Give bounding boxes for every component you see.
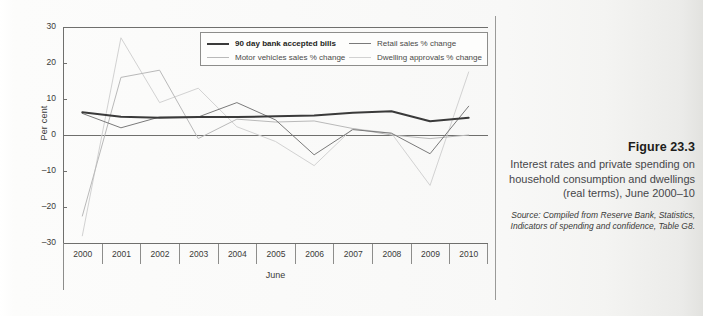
x-axis-cell-2002: 2002 <box>140 244 179 264</box>
x-axis-cell-2001: 2001 <box>102 244 141 264</box>
legend-label: Dwelling approvals % change <box>377 53 482 62</box>
x-axis-title: June <box>63 270 488 280</box>
legend-label: Retail sales % change <box>377 39 456 48</box>
legend-item: Motor vehicles sales % change <box>207 51 345 64</box>
y-tick-label: –20 <box>26 201 56 211</box>
series-line-retail-sales-change <box>82 103 468 155</box>
legend-item: Dwelling approvals % change <box>349 51 482 64</box>
figure-caption: Figure 23.3 Interest rates and private s… <box>505 140 695 232</box>
x-axis-cell-2005: 2005 <box>256 244 295 264</box>
figure-page: Per cent 3020100–10–20–30 20002001200220… <box>0 0 703 316</box>
y-tick-label: 10 <box>26 93 56 103</box>
x-axis-cell-2007: 2007 <box>333 244 372 264</box>
x-axis-cell-2004: 2004 <box>218 244 257 264</box>
y-tick-label: 0 <box>26 129 56 139</box>
x-axis-cell-2010: 2010 <box>449 244 488 264</box>
legend-item: Retail sales % change <box>349 37 456 50</box>
x-axis-cell-2009: 2009 <box>411 244 450 264</box>
legend-swatch-icon <box>207 57 229 58</box>
legend-item: 90 day bank accepted bills <box>207 37 336 50</box>
legend-swatch-icon <box>349 57 371 58</box>
figure-title: Interest rates and private spending on h… <box>505 157 695 201</box>
figure-number: Figure 23.3 <box>505 140 695 154</box>
x-axis-cell-2008: 2008 <box>372 244 411 264</box>
legend-swatch-icon <box>349 43 371 44</box>
legend-swatch-icon <box>207 43 229 45</box>
x-axis-cell-2003: 2003 <box>179 244 218 264</box>
chart-region: Per cent 3020100–10–20–30 20002001200220… <box>0 0 500 316</box>
x-axis-cell-2000: 2000 <box>63 244 102 264</box>
y-tick-label: –30 <box>26 237 56 247</box>
y-tick-label: –10 <box>26 165 56 175</box>
y-axis-title: Per cent <box>39 78 49 168</box>
legend-label: Motor vehicles sales % change <box>235 53 345 62</box>
y-tick-label: 20 <box>26 57 56 67</box>
figure-source: Source: Compiled from Reserve Bank, Stat… <box>505 210 695 232</box>
legend-label: 90 day bank accepted bills <box>235 39 336 48</box>
chart-legend: 90 day bank accepted billsMotor vehicles… <box>200 32 488 66</box>
y-tick-label: 30 <box>26 21 56 31</box>
figure-caption-divider <box>495 16 496 300</box>
x-axis-cell-2006: 2006 <box>295 244 334 264</box>
